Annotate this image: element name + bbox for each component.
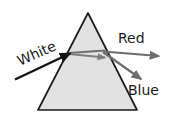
red-ray-label: Red [118,30,145,46]
white-ray-label: White [15,38,59,69]
prism-dispersion-diagram: White Red Blue [0,0,172,120]
blue-ray-label: Blue [128,82,159,98]
diagram-canvas: White Red Blue [0,0,172,120]
red-refracted-ray [103,52,159,57]
